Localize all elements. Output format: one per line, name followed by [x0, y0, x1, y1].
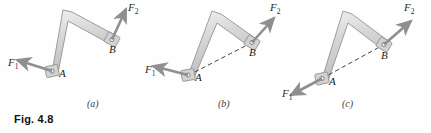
- panel-a-force2-subscript: 2: [135, 7, 139, 16]
- panel-c-joint-b-label: B: [381, 50, 388, 61]
- panel-c-force1-symbol: F: [282, 87, 289, 99]
- panel-c-force1-arrow: [291, 79, 322, 96]
- panel-c-caption: (c): [342, 99, 353, 109]
- panel-a-force2-symbol: F: [128, 1, 135, 13]
- panel-b-force1-label: F1: [145, 64, 155, 78]
- panel-c-force1-label: F1: [282, 88, 292, 102]
- panel-a-force1-arrow: [17, 60, 52, 71]
- panel-a-force1-symbol: F: [8, 56, 15, 68]
- panel-c-force1-subscript: 1: [289, 93, 293, 102]
- panel-b-force2-subscript: 2: [277, 7, 281, 16]
- figure-container: F1 F2 A B (a) F1 F2 A B (b) F1 F2 A B (c…: [0, 0, 431, 133]
- panel-b-force2-arrow: [252, 18, 274, 43]
- panel-b-force2-symbol: F: [270, 1, 277, 13]
- panel-c-group: [291, 11, 411, 95]
- panel-c-force2-label: F2: [404, 2, 414, 16]
- panel-c-force2-arrow: [384, 21, 411, 45]
- panel-a-joint-b-label: B: [109, 44, 116, 55]
- panel-c-force2-subscript: 2: [411, 7, 415, 16]
- panel-b-caption: (b): [218, 99, 230, 109]
- panel-a-force2-label: F2: [128, 2, 138, 16]
- panel-b-joint-a-label: A: [195, 72, 202, 83]
- panel-c-joint-a-label: A: [329, 76, 336, 87]
- panel-b-force1-subscript: 1: [152, 69, 156, 78]
- panel-c-force2-symbol: F: [404, 1, 411, 13]
- panel-a-joint-a-label: A: [59, 68, 66, 79]
- panel-b-joint-b-label: B: [249, 47, 256, 58]
- panel-a-force1-label: F1: [8, 57, 18, 71]
- figure-caption: Fig. 4.8: [14, 113, 54, 125]
- panel-a-force1-subscript: 1: [15, 62, 19, 71]
- panel-b-force1-symbol: F: [145, 63, 152, 75]
- panel-a-caption: (a): [87, 99, 99, 109]
- panel-b-force2-label: F2: [270, 2, 280, 16]
- panel-a-force2-arrow: [112, 9, 126, 40]
